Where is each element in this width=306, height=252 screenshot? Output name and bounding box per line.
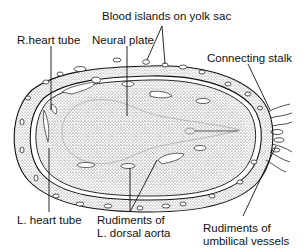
embryo-diagram: Blood islands on yolk sac R.heart tube N…	[0, 0, 306, 252]
label-neural-plate: Neural plate	[92, 34, 154, 47]
label-r-heart-tube: R.heart tube	[17, 34, 80, 47]
label-connecting-stalk: Connecting stalk	[207, 52, 292, 65]
label-umbilical-vessels: Rudiments of umbilical vessels	[203, 222, 289, 248]
label-l-heart-tube: L. heart tube	[17, 214, 82, 227]
label-dorsal-aorta: Rudiments of L. dorsal aorta	[97, 214, 171, 240]
label-blood-islands: Blood islands on yolk sac	[102, 10, 231, 23]
